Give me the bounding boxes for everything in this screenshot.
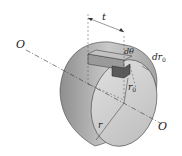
shaft-diagram: O O t dθ dr0 r0 r — [0, 0, 182, 156]
angle-label: dθ — [124, 47, 134, 56]
length-label: t — [102, 11, 107, 22]
axis-label-right: O — [158, 120, 167, 133]
outer-radius-label: r — [98, 120, 103, 130]
dr-label: dr0 — [152, 52, 166, 63]
axis-label-left: O — [16, 38, 25, 51]
